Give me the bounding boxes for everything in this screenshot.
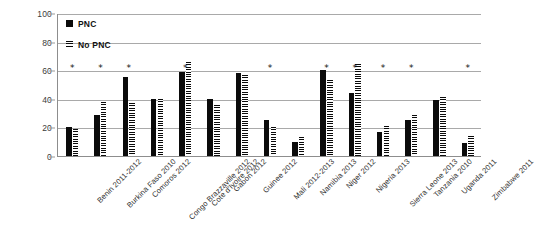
bar-pnc [236, 73, 242, 156]
bar-pnc [264, 120, 270, 156]
significance-marker: * [268, 64, 273, 73]
bar-no-pnc [158, 99, 164, 156]
bar-pnc [349, 93, 355, 156]
bar-groups: ********** [58, 14, 481, 156]
y-tick-mark-icon [49, 128, 55, 129]
bar-pnc [320, 70, 326, 156]
bar-pnc [66, 127, 72, 156]
plot-area: ********** [57, 14, 481, 157]
bar-no-pnc [327, 80, 333, 156]
bar-pnc [405, 120, 411, 156]
bar-group [425, 14, 453, 156]
bar-group [228, 14, 256, 156]
significance-marker: * [183, 64, 188, 73]
bar-pnc [94, 115, 100, 156]
bar-pnc [377, 132, 383, 156]
legend-item-pnc: PNC [66, 16, 111, 31]
y-axis: 020406080100 [0, 0, 52, 247]
bar-no-pnc [186, 62, 192, 156]
bar-group [199, 14, 227, 156]
x-tick-label: Nigeria 2013 [374, 157, 412, 195]
bar-group: * [312, 14, 340, 156]
bar-group: * [369, 14, 397, 156]
y-tick-mark-icon [49, 99, 55, 100]
significance-marker: * [353, 64, 358, 73]
bar-no-pnc [440, 97, 446, 156]
bar-no-pnc [299, 137, 305, 156]
bar-no-pnc [214, 105, 220, 156]
significance-marker: * [381, 64, 386, 73]
y-tick-label: 40 [6, 95, 52, 105]
significance-marker: * [324, 64, 329, 73]
significance-marker: * [466, 64, 471, 73]
y-tick-label: 60 [6, 66, 52, 76]
significance-marker: * [70, 64, 75, 73]
bar-pnc [179, 72, 185, 156]
significance-marker: * [98, 64, 103, 73]
y-tick-label: 20 [6, 123, 52, 133]
legend: PNC No PNC [66, 16, 111, 58]
significance-marker: * [126, 64, 131, 73]
bar-group: * [256, 14, 284, 156]
bar-group: * [115, 14, 143, 156]
bar-no-pnc [468, 136, 474, 156]
bar-no-pnc [384, 126, 390, 156]
bar-pnc [123, 77, 129, 156]
significance-marker: * [409, 64, 414, 73]
legend-swatch-no-pnc-icon [66, 41, 73, 48]
legend-swatch-pnc-icon [66, 20, 73, 27]
bar-pnc [292, 142, 298, 156]
bar-pnc [207, 99, 213, 156]
y-tick-mark-icon [49, 71, 55, 72]
y-tick-label: 100 [6, 9, 52, 19]
y-tick-label: 80 [6, 38, 52, 48]
bar-group: * [341, 14, 369, 156]
bar-group [143, 14, 171, 156]
bar-no-pnc [101, 102, 107, 156]
y-tick-mark-icon [49, 14, 55, 15]
bar-group: * [171, 14, 199, 156]
bar-group [284, 14, 312, 156]
bar-group: * [397, 14, 425, 156]
bar-no-pnc [129, 103, 135, 156]
x-axis-labels: Benin 2011-2012Burkina Faso 2010Comoros … [57, 157, 481, 247]
bar-no-pnc [73, 129, 79, 156]
legend-label-pnc: PNC [78, 19, 97, 29]
bar-no-pnc [355, 64, 361, 156]
legend-item-no-pnc: No PNC [66, 37, 111, 52]
y-tick-mark-icon [49, 42, 55, 43]
bar-no-pnc [242, 75, 248, 157]
bar-group: * [454, 14, 482, 156]
y-tick-label: 0 [6, 152, 52, 162]
bar-pnc [433, 100, 439, 156]
bar-no-pnc [412, 115, 418, 156]
bar-pnc [462, 143, 468, 156]
y-tick-mark-icon [49, 157, 55, 158]
bar-pnc [151, 99, 157, 156]
bar-no-pnc [271, 127, 277, 156]
legend-label-no-pnc: No PNC [78, 40, 111, 50]
